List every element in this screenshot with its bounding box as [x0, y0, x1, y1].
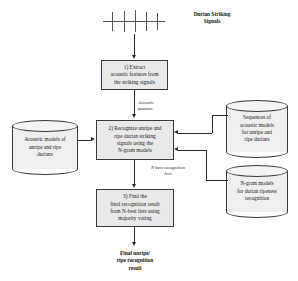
datastore-model-sequences-line3: for unripe and: [240, 129, 274, 136]
datastore-ngram-models-line2: for durian ripeness: [237, 188, 277, 195]
datastore-ngram-models: N-gram models for durian ripeness recogn…: [226, 165, 288, 218]
datastore-model-sequences-line1: Sequences of: [240, 114, 274, 121]
acoustic-features-label: Acoustic features: [138, 100, 180, 112]
datastore-model-sequences-line4: ripe durians: [240, 136, 274, 143]
striking-signal-waveform: [103, 10, 165, 32]
process-step-3-line3: from N-best lists using: [110, 208, 160, 215]
process-step-3: 3) Find the final recognition result fro…: [96, 189, 174, 227]
process-step-3-line2: final recognition result: [110, 201, 160, 208]
process-step-2: 2) Recognize unripe and ripe durian stri…: [96, 120, 174, 160]
process-step-1-line2: acoustic features from: [110, 71, 158, 78]
final-result-label-line3: result: [96, 265, 174, 272]
flowchart-canvas: Durian Striking Signals 1) Extract acous…: [0, 0, 298, 281]
edge-acoustic-store-to-step2: [78, 140, 92, 141]
nbest-lists-label-line2: lists: [139, 171, 197, 177]
process-step-1-line1: 1) Extract: [110, 64, 158, 71]
signal-source-label-line2: Signals: [174, 18, 250, 25]
datastore-acoustic-models: Acoustic models of unripe and ripe duria…: [12, 120, 78, 175]
edge-ngram-store-v: [206, 150, 207, 180]
nbest-lists-label: N-best recognition lists: [139, 165, 197, 177]
edge-ngram-store-arrowhead: [174, 147, 178, 151]
edge-step2-to-step3: [134, 160, 135, 186]
datastore-ngram-models-line3: recognition: [237, 195, 277, 202]
acoustic-features-label-line2: features: [138, 106, 180, 112]
process-step-2-line1: 2) Recognize unripe and: [108, 125, 161, 132]
edge-sequences-store-h1: [212, 115, 228, 116]
edge-sequences-store-h2: [178, 133, 212, 134]
signal-source-label-line1: Durian Striking: [174, 11, 250, 18]
final-result-label: Final unripe/ ripe recognition result: [96, 250, 174, 272]
edge-step2-to-step3-arrowhead: [132, 184, 136, 188]
datastore-acoustic-models-line1: Acoustic models of: [24, 136, 65, 143]
process-step-1-line3: the striking signals: [110, 79, 158, 86]
datastore-acoustic-models-line2: unripe and ripe: [24, 144, 65, 151]
edge-step1-to-step2-arrowhead: [132, 114, 136, 118]
edge-signal-to-step1-arrowhead: [132, 55, 136, 59]
edge-step3-to-output-arrowhead: [132, 242, 136, 246]
edge-signal-to-step1: [134, 34, 135, 57]
edge-sequences-store-v: [212, 115, 213, 133]
datastore-acoustic-models-line3: durians: [24, 151, 65, 158]
edge-ngram-store-h1: [206, 180, 228, 181]
edge-step1-to-step2: [134, 90, 135, 116]
process-step-2-line2: ripe durian striking: [108, 133, 161, 140]
edge-sequences-store-arrowhead: [174, 130, 178, 134]
edge-ngram-store-h2: [178, 150, 206, 151]
process-step-3-line4: majority voting: [110, 215, 160, 222]
edge-acoustic-store-to-step2-arrowhead: [91, 137, 95, 141]
final-result-label-line1: Final unripe/: [96, 250, 174, 257]
signal-source-label: Durian Striking Signals: [174, 11, 250, 26]
datastore-model-sequences-line2: acoustic models: [240, 122, 274, 129]
process-step-2-line4: N-gram models: [108, 147, 161, 154]
process-step-3-line1: 3) Find the: [110, 193, 160, 200]
process-step-2-line3: signals using the: [108, 140, 161, 147]
process-step-1: 1) Extract acoustic features from the st…: [101, 60, 168, 90]
datastore-model-sequences: Sequences of acoustic models for unripe …: [226, 100, 288, 158]
datastore-ngram-models-line1: N-gram models: [237, 180, 277, 187]
final-result-label-line2: ripe recognition: [96, 257, 174, 264]
